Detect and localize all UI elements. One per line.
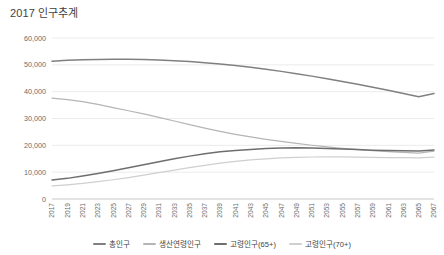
y-axis-tick-label: 60,000 [24,34,46,43]
legend-item-4[interactable]: 고령인구(70+) [289,238,351,249]
legend-label: 총인구 [109,238,130,249]
x-axis-tick-label: 2029 [140,203,147,218]
x-axis-tick-label: 2067 [430,203,437,218]
chart-legend: 총인구생산연령인구고령인구(65+)고령인구(70+) [0,238,444,249]
x-axis-tick-label: 2065 [415,203,422,218]
legend-item-3[interactable]: 고령인구(65+) [214,238,276,249]
y-axis-tick-label: 0 [42,195,46,204]
x-axis-tick-label: 2055 [339,203,346,218]
x-axis-tick-label: 2037 [201,203,208,218]
legend-label: 고령인구(70+) [305,238,351,249]
x-axis-tick-label: 2041 [232,203,239,218]
series-line-2 [52,98,434,153]
x-axis-tick-label: 2049 [293,203,300,218]
x-axis-tick-label: 2035 [186,203,193,218]
legend-label: 고령인구(65+) [230,238,276,249]
legend-swatch-icon [289,243,302,245]
legend-swatch-icon [93,243,106,245]
x-axis-tick-label: 2061 [385,203,392,218]
x-axis-tick-label: 2039 [216,203,223,218]
x-axis-tick-label: 2043 [247,203,254,218]
series-line-3 [52,148,434,180]
plot-area: 010,00020,00030,00040,00050,00060,000201… [0,0,444,255]
y-axis-tick-label: 40,000 [24,87,46,96]
chart-container: 2017 인구추계 010,00020,00030,00040,00050,00… [0,0,444,255]
x-axis-tick-label: 2059 [369,203,376,218]
x-axis-tick-label: 2051 [308,203,315,218]
y-axis-tick-label: 20,000 [24,141,46,150]
legend-swatch-icon [143,243,156,245]
x-axis-tick-label: 2021 [79,203,86,218]
legend-label: 생산연령인구 [159,238,201,249]
x-axis-tick-label: 2023 [94,203,101,218]
x-axis-tick-label: 2031 [155,203,162,218]
legend-item-2[interactable]: 생산연령인구 [143,238,201,249]
x-axis-tick-label: 2053 [323,203,330,218]
x-axis-tick-label: 2033 [171,203,178,218]
x-axis-tick-label: 2047 [278,203,285,218]
y-axis-tick-label: 30,000 [24,114,46,123]
y-axis-tick-label: 50,000 [24,60,46,69]
x-axis-tick-label: 2027 [125,203,132,218]
y-axis-tick-label: 10,000 [24,168,46,177]
x-axis-tick-label: 2019 [64,203,71,218]
x-axis-tick-label: 2045 [262,203,269,218]
legend-item-1[interactable]: 총인구 [93,238,130,249]
x-axis-tick-label: 2025 [110,203,117,218]
x-axis-tick-label: 2057 [354,203,361,218]
x-axis-tick-label: 2017 [48,203,55,218]
line-chart-svg: 010,00020,00030,00040,00050,00060,000201… [0,0,444,255]
legend-swatch-icon [214,243,227,245]
x-axis-tick-label: 2063 [400,203,407,218]
